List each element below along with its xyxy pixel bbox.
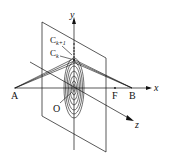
ck1-pointer (62, 46, 72, 55)
o-pointer (60, 92, 72, 103)
label-x: x (153, 82, 159, 93)
label-z: z (134, 119, 139, 130)
label-b: B (129, 90, 136, 101)
diagram-canvas: y x z A B F O Ck+1 Ck (0, 0, 169, 167)
label-o: O (53, 103, 60, 114)
label-a: A (11, 90, 19, 101)
ck-pointer (60, 56, 71, 59)
label-ck: Ck (50, 48, 59, 59)
label-y: y (69, 9, 75, 20)
point-f-marker (114, 87, 116, 89)
x-axis-arrow-icon (146, 86, 152, 90)
label-f: F (112, 90, 118, 101)
z-axis-arrow-icon (126, 115, 134, 121)
label-ck1: Ck+1 (50, 35, 66, 46)
